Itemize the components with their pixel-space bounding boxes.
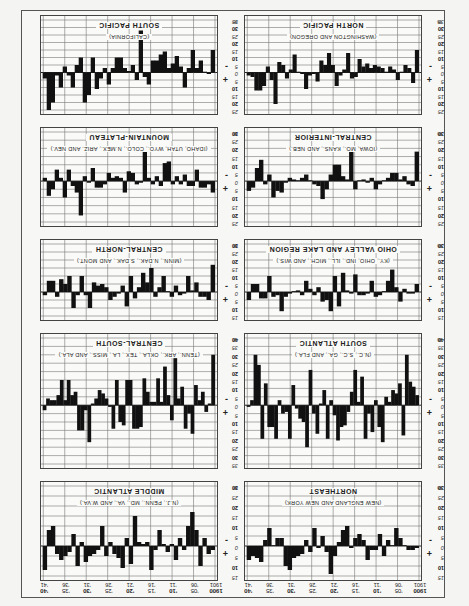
minus-sign-label: -	[429, 63, 432, 73]
data-bar	[191, 181, 195, 186]
data-bar	[179, 67, 183, 73]
data-bar	[202, 292, 206, 297]
data-bar	[207, 546, 211, 554]
plus-sign-label: +	[427, 548, 432, 558]
data-bar	[382, 546, 386, 556]
data-bar	[147, 178, 151, 181]
data-bar	[167, 68, 171, 73]
data-bar	[80, 276, 84, 292]
y-tick-label: 25	[438, 34, 444, 40]
data-bar	[394, 173, 398, 181]
region-title: OHIO VALLEY AND LAKE REGION	[245, 246, 421, 253]
data-bar	[247, 292, 251, 300]
data-bar	[174, 546, 178, 560]
data-bar	[267, 175, 271, 182]
data-bar	[83, 73, 87, 103]
data-bar	[187, 405, 191, 413]
data-bar	[149, 402, 153, 405]
year-tick-label: '30'31	[77, 582, 97, 594]
data-bar	[281, 65, 285, 73]
data-bar	[370, 178, 374, 181]
year-tick-label: '35'36	[260, 582, 280, 594]
data-bar	[94, 398, 98, 405]
data-bar	[263, 540, 267, 546]
data-bar	[370, 546, 374, 550]
data-bar	[267, 405, 271, 427]
y-tick-label: 0	[235, 291, 238, 297]
y-tick-label: 20	[232, 213, 238, 219]
data-bar	[415, 546, 419, 548]
data-bar	[88, 292, 92, 308]
data-bar	[203, 181, 207, 188]
y-tick-label: 15	[232, 379, 238, 385]
data-bar	[300, 546, 304, 554]
y-tick-label: 10	[232, 525, 238, 531]
y-tick-label: 10	[438, 565, 444, 571]
data-bar	[329, 292, 333, 311]
plus-sign-label: +	[223, 294, 228, 304]
data-bar	[91, 404, 95, 406]
year-tick-label: '10'11	[367, 582, 387, 594]
data-bar	[258, 73, 262, 91]
data-bar	[125, 292, 129, 306]
data-bar	[312, 528, 316, 546]
y-tick-label: 30	[232, 354, 238, 360]
data-bar	[369, 68, 373, 73]
data-bar	[312, 292, 316, 295]
data-bar	[390, 270, 394, 292]
data-bar	[137, 542, 141, 546]
data-bar	[115, 380, 119, 405]
data-bar	[386, 281, 390, 292]
region-panel-middle-atlantic: (N.J., PENN., MD., VA., AND W.VA.)MIDDLE…	[40, 481, 218, 581]
region-panel-central-south: (TENN., ARK., OKLA., TEX., LA., MISS., A…	[40, 333, 218, 469]
data-bar	[415, 395, 419, 405]
data-bar	[292, 291, 296, 292]
data-bar	[122, 405, 126, 425]
y-tick-label: 0	[441, 291, 444, 297]
y-tick-label: 20	[438, 147, 444, 153]
region-panel-ohio-valley-and-lake-region: (KY., OHIO, IND., ILL., MICH., AND WIS.)…	[244, 239, 422, 321]
data-bar	[71, 292, 75, 308]
region-title: CENTRAL-SOUTH	[41, 340, 217, 347]
data-bar	[107, 173, 111, 181]
data-bar	[161, 276, 165, 292]
data-bar	[149, 268, 153, 292]
data-bar	[267, 528, 271, 546]
data-bar	[275, 181, 279, 191]
data-bar	[337, 292, 341, 306]
data-bar	[170, 292, 174, 297]
data-bar	[191, 50, 195, 73]
data-bar	[327, 53, 331, 73]
data-bar	[123, 181, 127, 192]
data-bar	[288, 178, 292, 181]
data-bar	[312, 405, 316, 413]
y-tick-label: 30	[438, 455, 444, 461]
data-bar	[386, 178, 390, 181]
data-bar	[211, 265, 215, 292]
plus-sign-label: +	[223, 548, 228, 558]
data-bar	[99, 181, 103, 188]
data-bar	[187, 181, 191, 186]
data-bar	[335, 73, 339, 87]
data-bar	[157, 287, 161, 292]
y-tick-label: 25	[232, 139, 238, 145]
y-tick-label: 20	[438, 213, 444, 219]
data-bar	[395, 393, 399, 405]
data-bar	[319, 61, 323, 73]
data-bar	[43, 546, 47, 570]
data-bar	[153, 402, 157, 405]
y-tick-label: 15	[232, 515, 238, 521]
data-bar	[112, 292, 116, 297]
y-tick-label: 5	[441, 413, 444, 419]
data-bar	[278, 400, 282, 405]
data-bar	[63, 67, 67, 73]
data-bar	[71, 534, 75, 546]
data-bar	[67, 546, 71, 552]
data-bar	[211, 355, 215, 405]
data-bar	[279, 181, 283, 192]
data-bar	[115, 58, 119, 73]
year-tick-label: 19001901	[206, 582, 226, 594]
region-title: NORTHEAST	[245, 488, 421, 495]
data-bar	[84, 546, 88, 562]
y-tick-label: 25	[232, 251, 238, 257]
